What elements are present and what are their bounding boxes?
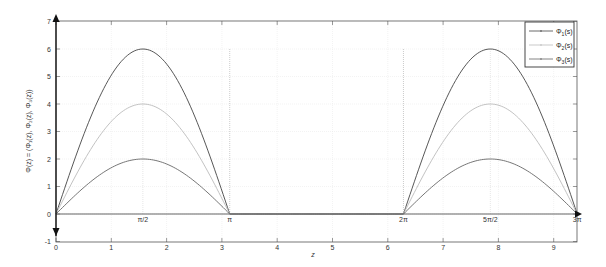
y-tick-label: 0 xyxy=(47,211,51,218)
x-tick-label: 0 xyxy=(54,244,58,251)
chart: 0123456789-101234567 π/2π2π5π/23π z Φ(z)… xyxy=(0,0,606,267)
pi-annotation: π/2 xyxy=(138,216,149,223)
x-tick-label: 5 xyxy=(331,244,335,251)
x-tick-label: 4 xyxy=(275,244,279,251)
y-tick-label: 5 xyxy=(47,73,51,80)
y-tick-label: 2 xyxy=(47,156,51,163)
y-tick-label: 7 xyxy=(47,18,51,25)
y-axis-arrow-down-icon xyxy=(53,228,60,236)
y-tick-label: 1 xyxy=(47,183,51,190)
x-tick-label: 9 xyxy=(552,244,556,251)
annotations: π/2π2π5π/23π xyxy=(138,216,582,223)
grid-lines xyxy=(56,21,577,242)
pi-annotation: π xyxy=(227,216,232,223)
legend: Φ1(s)Φ2(s)Φ3(s) xyxy=(525,22,574,67)
x-tick-label: 7 xyxy=(441,244,445,251)
y-axis-arrow-up-icon xyxy=(53,14,60,22)
y-tick-label: 3 xyxy=(47,128,51,135)
x-axis-label: z xyxy=(310,251,315,258)
x-tick-label: 1 xyxy=(109,244,113,251)
pi-annotation: 2π xyxy=(399,216,408,223)
x-tick-label: 6 xyxy=(386,244,390,251)
x-tick-label: 3 xyxy=(220,244,224,251)
pi-annotation: 3π xyxy=(573,216,582,223)
y-tick-label: 6 xyxy=(47,46,51,53)
y-tick-label: 4 xyxy=(47,101,51,108)
y-tick-label: -1 xyxy=(45,238,51,245)
y-axis-label: Φ(z) = (Φ₁(z), Φ₂(z), Φ₃(z)) xyxy=(25,89,33,172)
x-tick-label: 2 xyxy=(165,244,169,251)
x-tick-label: 8 xyxy=(496,244,500,251)
axes-arrows xyxy=(53,14,583,236)
pi-annotation: 5π/2 xyxy=(483,216,498,223)
